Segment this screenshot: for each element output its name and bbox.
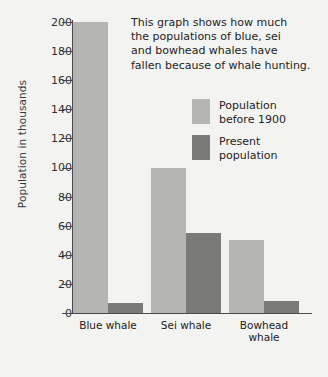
y-tick-mark-60	[62, 226, 73, 227]
y-tick-mark-100	[62, 168, 73, 169]
legend-label-present-line1: Present	[219, 135, 278, 149]
y-tick-mark-0	[62, 313, 73, 314]
y-tick-mark-40	[62, 255, 73, 256]
y-tick-mark-140	[62, 109, 73, 110]
y-tick-mark-200	[62, 22, 73, 23]
legend-label-present: Present population	[219, 135, 278, 162]
x-axis-label-bowhead-whale-line1: Bowhead	[224, 319, 304, 331]
bar-blue-whale-present	[108, 303, 143, 313]
chart-description-line-2: the populations of blue, sei	[131, 30, 327, 44]
legend-label-before-1900: Population before 1900	[219, 99, 286, 126]
chart-description: This graph shows how much the population…	[131, 16, 327, 73]
x-axis-label-bowhead-whale-line2: whale	[224, 331, 304, 343]
legend-label-before-1900-line1: Population	[219, 99, 286, 113]
x-axis-label-blue-whale: Blue whale	[68, 319, 148, 331]
chart-legend: Population before 1900 Present populatio…	[192, 99, 286, 171]
y-tick-mark-20	[62, 284, 73, 285]
whale-population-bar-chart: Population in thousands 200 180 160 140 …	[0, 0, 328, 377]
bar-sei-whale-before-1900	[151, 168, 186, 314]
bar-sei-whale-present	[186, 233, 221, 313]
bar-bowhead-whale-present	[264, 301, 299, 313]
y-tick-mark-160	[62, 80, 73, 81]
legend-label-present-line2: population	[219, 149, 278, 163]
legend-item-present: Present population	[192, 135, 286, 162]
legend-item-before-1900: Population before 1900	[192, 99, 286, 126]
legend-label-before-1900-line2: before 1900	[219, 113, 286, 127]
bar-blue-whale-before-1900	[73, 22, 108, 313]
chart-description-line-3: and bowhead whales have	[131, 44, 327, 58]
y-tick-mark-120	[62, 138, 73, 139]
chart-description-line-1: This graph shows how much	[131, 16, 327, 30]
y-tick-mark-80	[62, 197, 73, 198]
x-axis-label-sei-whale: Sei whale	[146, 319, 226, 331]
legend-swatch-before-1900-icon	[192, 99, 210, 124]
y-tick-mark-180	[62, 51, 73, 52]
legend-swatch-present-icon	[192, 135, 210, 160]
bar-bowhead-whale-before-1900	[229, 240, 264, 313]
chart-description-line-4: fallen because of whale hunting.	[131, 59, 327, 73]
